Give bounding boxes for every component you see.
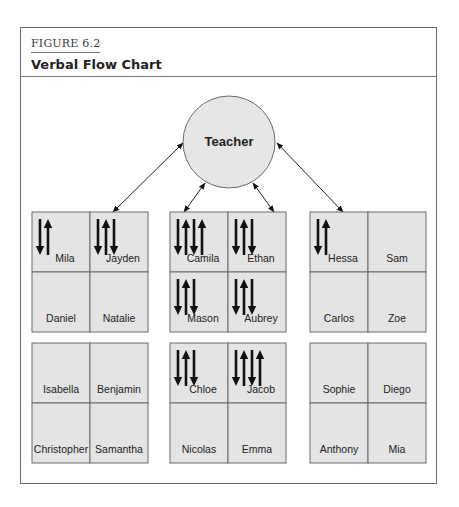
- student-cell: Ethan: [228, 212, 286, 272]
- student-cell: Nicolas: [170, 403, 228, 463]
- student-name: Sophie: [323, 383, 356, 395]
- student-name: Isabella: [43, 383, 79, 395]
- student-cell: Anthony: [310, 403, 368, 463]
- student-cell: Natalie: [90, 272, 148, 332]
- student-cell: Zoe: [368, 272, 426, 332]
- student-group: ChloeJacobNicolasEmma: [170, 343, 286, 463]
- student-cell: Christopher: [32, 403, 90, 463]
- student-groups: MilaJaydenDanielNatalieCamilaEthanMasonA…: [32, 212, 426, 463]
- student-cell: Chloe: [170, 343, 228, 403]
- student-name: Anthony: [320, 443, 359, 455]
- student-name: Nicolas: [182, 443, 216, 455]
- student-cell: Samantha: [90, 403, 148, 463]
- student-name: Samantha: [95, 443, 143, 455]
- student-group: MilaJaydenDanielNatalie: [32, 212, 148, 332]
- connection-arrow-ethan: [253, 183, 274, 212]
- student-group: HessaSamCarlosZoe: [310, 212, 426, 332]
- student-cell: Sophie: [310, 343, 368, 403]
- connection-arrow-camila: [184, 183, 205, 212]
- student-name: Ethan: [247, 252, 275, 264]
- student-name: Daniel: [46, 312, 76, 324]
- student-name: Christopher: [34, 443, 89, 455]
- student-cell: Benjamin: [90, 343, 148, 403]
- student-name: Mila: [55, 252, 74, 264]
- student-cell: Daniel: [32, 272, 90, 332]
- student-cell: Mila: [32, 212, 90, 272]
- student-cell: Sam: [368, 212, 426, 272]
- student-cell: Camila: [170, 212, 228, 272]
- student-cell: Carlos: [310, 272, 368, 332]
- student-name: Zoe: [388, 312, 406, 324]
- connection-arrow-group-3: [277, 143, 343, 212]
- student-name: Natalie: [103, 312, 136, 324]
- student-name: Jacob: [247, 383, 275, 395]
- student-cell: Mia: [368, 403, 426, 463]
- student-cell: Diego: [368, 343, 426, 403]
- student-name: Chloe: [189, 383, 217, 395]
- student-group: IsabellaBenjaminChristopherSamantha: [32, 343, 148, 463]
- student-name: Sam: [386, 252, 408, 264]
- student-cell: Isabella: [32, 343, 90, 403]
- student-name: Emma: [242, 443, 272, 455]
- connection-arrow-group-1: [113, 143, 183, 212]
- student-name: Diego: [383, 383, 411, 395]
- student-name: Camila: [187, 252, 220, 264]
- verbal-flow-diagram: Teacher MilaJaydenDanielNatalieCamilaEth…: [0, 0, 459, 507]
- teacher-label: Teacher: [205, 134, 254, 149]
- student-name: Mia: [389, 443, 406, 455]
- student-cell: Hessa: [310, 212, 368, 272]
- student-cell: Jayden: [90, 212, 148, 272]
- student-cell: Emma: [228, 403, 286, 463]
- student-name: Jayden: [106, 252, 140, 264]
- student-name: Hessa: [328, 252, 358, 264]
- student-cell: Jacob: [228, 343, 286, 403]
- student-name: Carlos: [324, 312, 354, 324]
- student-name: Benjamin: [97, 383, 141, 395]
- student-cell: Mason: [170, 272, 228, 332]
- teacher-node: Teacher: [183, 96, 275, 188]
- student-name: Aubrey: [244, 312, 278, 324]
- student-name: Mason: [187, 312, 219, 324]
- student-group: SophieDiegoAnthonyMia: [310, 343, 426, 463]
- student-cell: Aubrey: [228, 272, 286, 332]
- student-group: CamilaEthanMasonAubrey: [170, 212, 286, 332]
